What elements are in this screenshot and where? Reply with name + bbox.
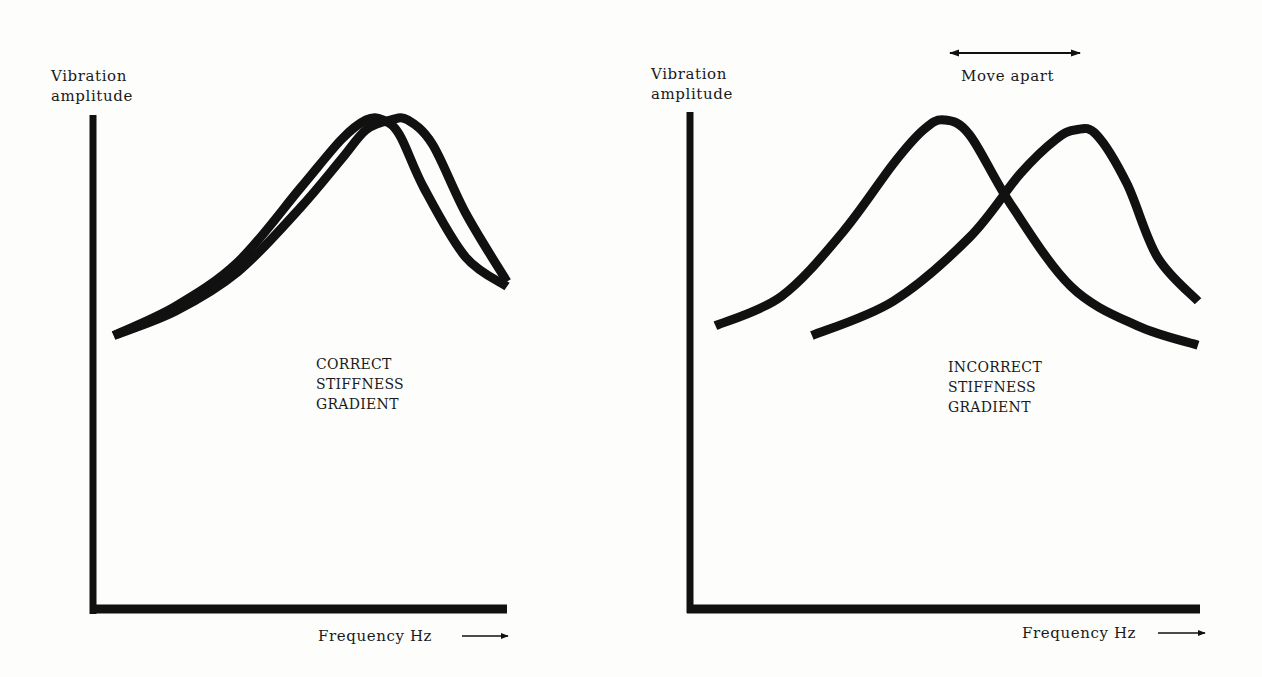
right-caption-line-3: GRADIENT — [948, 397, 1042, 417]
resonance-curve-high — [812, 128, 1198, 335]
left-panel — [90, 115, 508, 636]
right-y-label-line-2: amplitude — [651, 84, 733, 104]
left-caption-line-1: CORRECT — [316, 354, 404, 374]
left-curves — [114, 118, 507, 336]
left-x-axis-label: Frequency Hz — [318, 626, 432, 646]
right-caption-line-2: STIFFNESS — [948, 377, 1042, 397]
left-caption-line-3: GRADIENT — [316, 394, 404, 414]
left-y-axis-label: Vibration amplitude — [51, 66, 133, 106]
right-x-axis-label: Frequency Hz — [1022, 623, 1136, 643]
right-curves — [715, 120, 1198, 346]
right-caption: INCORRECT STIFFNESS GRADIENT — [948, 357, 1042, 417]
right-caption-line-1: INCORRECT — [948, 357, 1042, 377]
left-y-label-line-2: amplitude — [51, 86, 133, 106]
right-panel — [687, 53, 1205, 633]
left-y-label-line-1: Vibration — [51, 66, 133, 86]
resonance-curve-low — [715, 120, 1198, 346]
diagram-canvas — [0, 0, 1262, 677]
right-y-axis-label: Vibration amplitude — [651, 64, 733, 104]
left-caption-line-2: STIFFNESS — [316, 374, 404, 394]
left-caption: CORRECT STIFFNESS GRADIENT — [316, 354, 404, 414]
move-apart-label: Move apart — [961, 66, 1054, 86]
right-y-label-line-1: Vibration — [651, 64, 733, 84]
resonance-curve-a — [114, 118, 507, 336]
